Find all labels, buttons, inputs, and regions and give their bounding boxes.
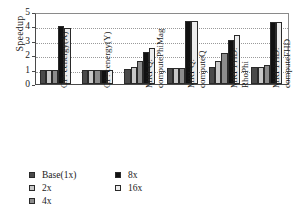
legend-item: 2x [29, 181, 76, 194]
legend-swatch [29, 172, 35, 178]
y-tick-label: 1 [10, 66, 30, 76]
legend-label: Base(1x) [42, 170, 76, 180]
y-tick-label: 0 [10, 80, 30, 90]
legend-swatch [29, 185, 35, 191]
legend-item: 16x [115, 181, 142, 194]
legend-label: 4x [42, 196, 52, 206]
legend-swatch [29, 198, 35, 204]
x-tick-label: MRI-FHD: computeFHD [271, 14, 292, 88]
y-tick-mark [32, 85, 35, 86]
y-tick-label: 3 [10, 37, 30, 47]
y-tick-label: 2 [10, 51, 30, 61]
legend-item: 8x [115, 168, 142, 181]
legend-swatch [115, 185, 121, 191]
legend-item: Base(1x) [29, 168, 76, 181]
legend-label: 8x [128, 170, 138, 180]
legend-swatch [115, 172, 121, 178]
x-tick-label: MRI-FHD: RhoPhi [229, 14, 250, 88]
y-tick-label: 4 [10, 23, 30, 33]
x-tick-label: CP: cenergy(Y) [102, 14, 113, 88]
legend-item: 4x [29, 194, 76, 207]
legend-column-left: Base(1x)2x4x [29, 168, 76, 207]
legend-label: 16x [128, 183, 142, 193]
legend-label: 2x [42, 183, 52, 193]
legend-column-right: 8x16x [115, 168, 142, 194]
y-tick-label: 5 [10, 8, 30, 18]
x-tick-label: MRI-Q: computePhiMag [144, 14, 165, 88]
speedup-bar-chart: Speedup 012345 CP: cenergy(X)CP: cenergy… [0, 0, 302, 217]
x-tick-label: MRI-Q: computeQ [186, 14, 207, 88]
x-tick-label: CP: cenergy(X) [59, 14, 70, 88]
